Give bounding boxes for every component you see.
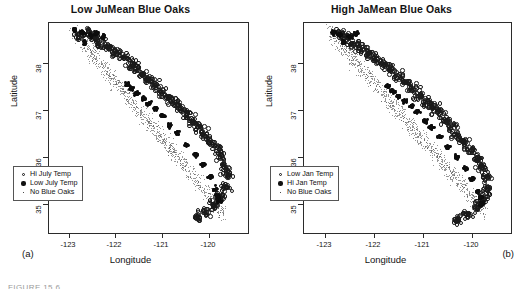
open-circle-icon	[18, 173, 29, 176]
legend-label: Hi July Temp	[29, 170, 71, 178]
panel-corner-label-a: (a)	[22, 248, 34, 259]
legend-item-no-blue-oaks: No Blue Oaks	[275, 188, 333, 197]
legend-label: Low July Temp	[29, 179, 77, 187]
figure-caption-fragment: FIGURE 15.6	[8, 283, 128, 289]
solid-circle-icon	[275, 181, 286, 185]
legend-label: Hi Jan Temp	[286, 179, 327, 187]
x-axis-label-left: Longitude	[0, 254, 261, 265]
legend-label: Low Jan Temp	[286, 170, 333, 178]
legend-left: Hi July Temp Low July Temp No Blue Oaks	[13, 166, 83, 201]
panel-title-right: High JaMean Blue Oaks	[261, 3, 522, 15]
x-axis-label-right: Longitude	[255, 254, 516, 265]
y-axis-label-right: Latitude	[264, 61, 274, 121]
figure-two-panel-scatter: Low JuMean Blue Oaks Latitude 38 37 36 3…	[0, 0, 522, 289]
panel-low-jumean: Low JuMean Blue Oaks Latitude 38 37 36 3…	[0, 0, 261, 278]
panel-title-left: Low JuMean Blue Oaks	[0, 3, 261, 15]
panel-corner-label-b: (b)	[502, 248, 514, 259]
solid-circle-icon	[18, 181, 29, 185]
legend-label: No Blue Oaks	[29, 188, 74, 196]
panel-high-jamean: High JaMean Blue Oaks Latitude 38 37 36 …	[261, 0, 522, 278]
legend-right: Low Jan Temp Hi Jan Temp No Blue Oaks	[270, 166, 339, 201]
small-dot-icon	[275, 192, 286, 193]
small-dot-icon	[18, 192, 29, 193]
plot-area-right	[303, 22, 512, 234]
legend-label: No Blue Oaks	[286, 188, 331, 196]
y-axis-label-left: Latitude	[9, 61, 19, 121]
plot-area-left	[48, 22, 249, 234]
open-circle-icon	[275, 173, 286, 176]
legend-item-no-blue-oaks: No Blue Oaks	[18, 188, 77, 197]
